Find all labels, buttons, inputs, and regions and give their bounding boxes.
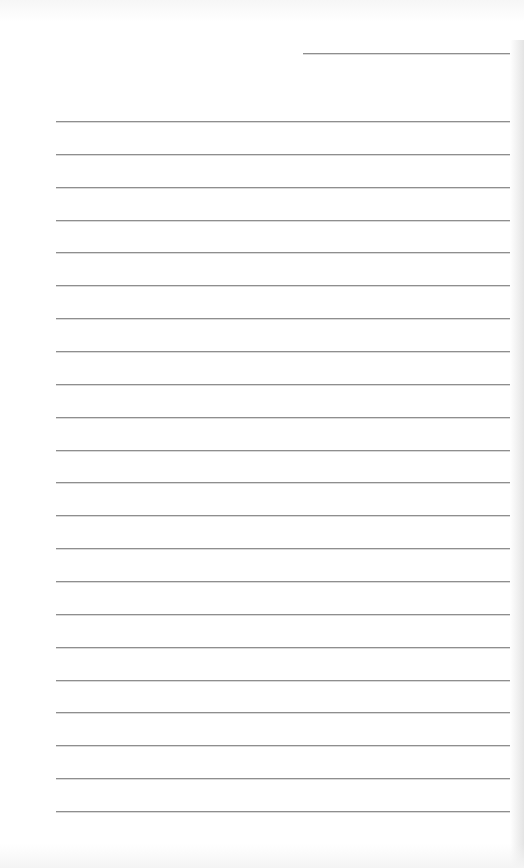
ruled-line: [56, 647, 510, 648]
ruled-line: [56, 515, 510, 516]
header-line: [303, 53, 510, 54]
ruled-line: [56, 252, 510, 253]
ruled-line: [56, 417, 510, 418]
ruled-line: [56, 614, 510, 615]
scan-bottom-shade: [0, 844, 524, 868]
ruled-line: [56, 220, 510, 221]
ruled-line: [56, 187, 510, 188]
ruled-line: [56, 384, 510, 385]
ruled-line: [56, 351, 510, 352]
ruled-line: [56, 778, 510, 779]
ruled-line: [56, 482, 510, 483]
ruled-line: [56, 712, 510, 713]
ruled-line: [56, 745, 510, 746]
ruled-line: [56, 581, 510, 582]
ruled-line: [56, 680, 510, 681]
ruled-line: [56, 450, 510, 451]
ruled-line: [56, 811, 510, 812]
scan-top-shade: [0, 0, 524, 22]
ruled-line: [56, 285, 510, 286]
page-edge-shadow: [510, 40, 524, 868]
ruled-line: [56, 318, 510, 319]
ruled-line: [56, 548, 510, 549]
ruled-line: [56, 154, 510, 155]
ruled-line: [56, 121, 510, 122]
